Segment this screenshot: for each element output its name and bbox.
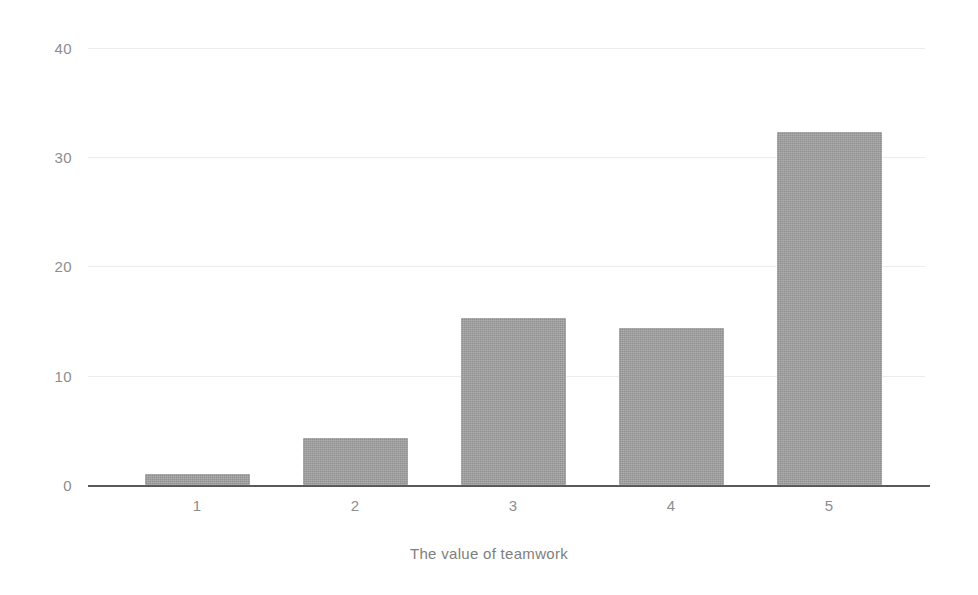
x-tick-label-5: 5 — [789, 497, 869, 514]
x-tick-label-4: 4 — [631, 497, 711, 514]
bar-category-5[interactable] — [777, 132, 882, 485]
x-axis-line — [88, 485, 930, 487]
bar-category-1[interactable] — [145, 474, 250, 485]
bar-chart: 40 30 20 10 0 1 2 3 4 5 The value of tea… — [0, 0, 978, 595]
x-tick-label-2: 2 — [315, 497, 395, 514]
x-axis-title: The value of teamwork — [0, 545, 978, 562]
bar-category-3[interactable] — [461, 318, 566, 485]
x-tick-label-1: 1 — [157, 497, 237, 514]
bar-category-4[interactable] — [619, 328, 724, 485]
x-tick-label-3: 3 — [473, 497, 553, 514]
bar-category-2[interactable] — [303, 438, 408, 485]
